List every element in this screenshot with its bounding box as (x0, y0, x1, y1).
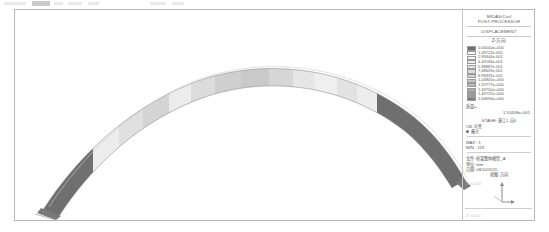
legend-stage-block: STAGE: 施工1-自4 CB: 자중 最大 (466, 118, 532, 134)
orientation-triad-icon (489, 182, 515, 204)
legend-divider-mid (467, 36, 531, 37)
swatch-0 (467, 46, 476, 50)
swatch-10 (467, 92, 476, 96)
legend-panel: MIDAS/Civil POST-PROCESSOR DISPLACEMENT … (462, 10, 534, 220)
swatch-9 (467, 88, 476, 92)
legend-result-type: DISPLACEMENT (466, 29, 532, 34)
legend-divider-file (467, 152, 531, 153)
screenshot-root: MIDAS/Civil POST-PROCESSOR DISPLACEMENT … (0, 0, 549, 232)
swatch-7 (467, 79, 476, 83)
scan-artifacts (0, 0, 220, 9)
legend-title-line-2: POST-PROCESSOR (466, 19, 532, 24)
swatch-1 (467, 51, 476, 55)
legend-divider-stats (467, 136, 531, 137)
legend-file-block: 文件: 桥梁整体模型_A 单位: mm 日期: 08/10/2011 视图-方向 (466, 156, 532, 178)
load-label: 最大 (466, 129, 532, 134)
arch-contour-plot (15, 10, 480, 220)
swatch-4 (467, 65, 476, 69)
legend-info-block: 质量= 1.51658e+001 (466, 104, 532, 115)
legend-stats-block: MAX : 1 MIN : 123 (466, 140, 532, 151)
footer-coordinate-x: X: 0.000 (466, 181, 481, 186)
viewport-frame: MIDAS/Civil POST-PROCESSOR DISPLACEMENT … (14, 9, 535, 221)
swatch-2 (467, 56, 476, 60)
color-scale-row: 1.64694e+000 (467, 97, 532, 102)
swatch-6 (467, 74, 476, 78)
min-label: MIN : 123 (466, 145, 532, 150)
bullet-icon (466, 130, 469, 133)
footer-coordinate-z: Z: 0.000 (466, 213, 481, 218)
color-scale: 0.00000e+000 1.49722e-001 2.99444e-001 4… (467, 46, 532, 101)
contour-bands (15, 10, 480, 220)
swatch-11 (467, 97, 476, 101)
model-view[interactable] (15, 10, 480, 220)
legend-divider-top (467, 26, 531, 27)
swatch-5 (467, 69, 476, 73)
mass-value: 1.51658e+001 (466, 110, 532, 115)
load-label-text: 最大 (471, 129, 479, 134)
legend-component: Z-方向 (466, 38, 532, 44)
legend-divider-bottom (465, 208, 532, 209)
swatch-value-11: 1.64694e+000 (478, 97, 504, 102)
view-label: 视图-方向 (466, 172, 532, 177)
swatch-3 (467, 60, 476, 64)
swatch-8 (467, 83, 476, 87)
